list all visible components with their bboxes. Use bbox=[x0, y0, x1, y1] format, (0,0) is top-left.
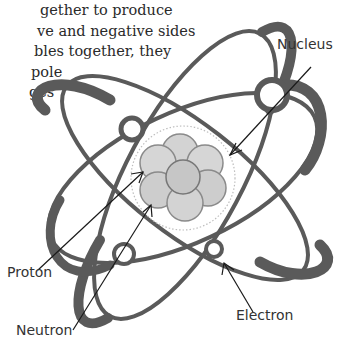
electron-bottom-left bbox=[114, 244, 134, 264]
atom-diagram bbox=[0, 0, 347, 349]
label-nucleus: Nucleus bbox=[277, 36, 333, 52]
electron-top-right bbox=[257, 80, 287, 110]
label-electron: Electron bbox=[236, 307, 293, 323]
electron-left bbox=[121, 118, 143, 140]
electron-bottom-right bbox=[206, 241, 222, 257]
label-neutron: Neutron bbox=[16, 322, 72, 338]
label-proton: Proton bbox=[7, 264, 52, 280]
